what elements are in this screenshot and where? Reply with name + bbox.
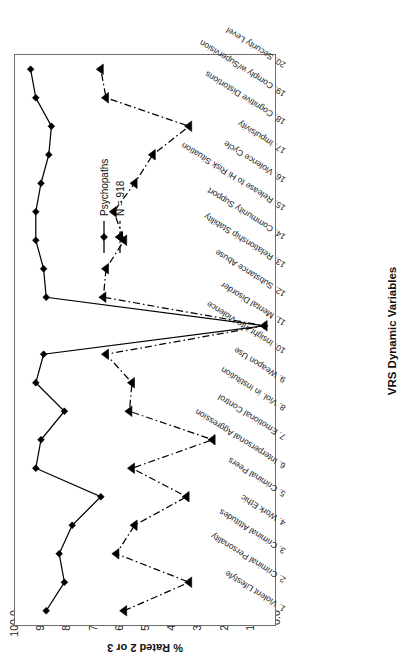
data-point — [32, 208, 39, 215]
data-point — [32, 237, 39, 244]
x-axis-title: VRS Dynamic Variables — [386, 0, 398, 662]
data-point — [61, 579, 68, 586]
data-point — [45, 151, 52, 158]
data-point — [130, 178, 137, 189]
legend-triangle-icon — [113, 220, 127, 254]
data-point — [185, 121, 192, 132]
plot-canvas — [15, 55, 275, 625]
data-point — [43, 607, 50, 614]
data-point — [38, 180, 45, 187]
legend-label: N = 918 — [115, 181, 126, 216]
data-point — [101, 349, 108, 360]
data-point — [130, 520, 137, 531]
data-point — [32, 94, 39, 101]
data-point — [260, 320, 267, 331]
y-axis-title: % Rated 2 or 3 — [107, 642, 183, 654]
data-point — [32, 465, 39, 472]
data-point — [40, 351, 47, 358]
data-point — [208, 434, 215, 445]
legend-diamond-icon — [97, 220, 111, 254]
chart-figure: % Rated 2 or 3 100.090.080.070.060.050.0… — [0, 0, 412, 662]
data-point — [43, 294, 50, 301]
data-point — [96, 64, 103, 75]
chart-legend: PsychopathsN = 918 — [96, 159, 128, 254]
legend-item: Psychopaths — [96, 159, 112, 254]
data-point — [40, 265, 47, 272]
data-point — [148, 149, 155, 160]
data-point — [185, 577, 192, 588]
data-point — [101, 263, 108, 274]
data-point — [112, 548, 119, 559]
data-point — [125, 406, 132, 417]
data-point — [27, 66, 34, 73]
data-point — [48, 123, 55, 130]
data-point — [127, 463, 134, 474]
plot-area — [14, 54, 276, 626]
legend-item: N = 918 — [112, 159, 128, 254]
legend-label: Psychopaths — [99, 159, 110, 216]
data-point — [99, 292, 106, 303]
data-point — [182, 491, 189, 502]
data-point — [120, 605, 127, 616]
data-point — [127, 377, 134, 388]
data-point — [56, 550, 63, 557]
